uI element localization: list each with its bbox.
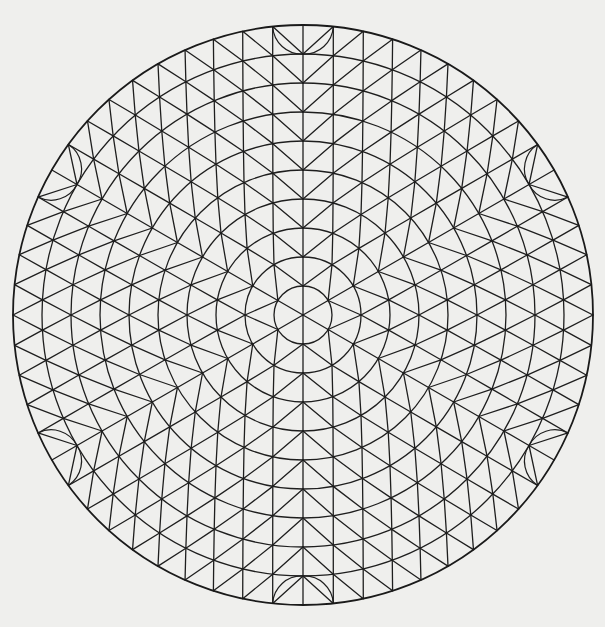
mesh-edge bbox=[253, 330, 278, 345]
mesh-edge bbox=[109, 494, 113, 530]
mesh-edge bbox=[27, 390, 53, 405]
geodesic-mesh-svg bbox=[0, 0, 605, 627]
mesh-edge bbox=[187, 498, 215, 516]
mesh-edge bbox=[247, 248, 253, 286]
mesh-edge bbox=[19, 360, 46, 375]
mesh-edge bbox=[170, 203, 196, 218]
mesh-edge bbox=[363, 70, 392, 91]
mesh-edge bbox=[203, 257, 228, 272]
mesh-edge bbox=[139, 151, 165, 166]
mesh-edge bbox=[385, 218, 411, 233]
mesh-edge bbox=[441, 345, 474, 360]
mesh-edge bbox=[273, 460, 303, 486]
mesh-edge bbox=[303, 518, 333, 545]
mesh-edge bbox=[119, 442, 144, 457]
mesh-edge bbox=[274, 344, 303, 365]
mesh-edge bbox=[165, 448, 191, 464]
mesh-edge bbox=[454, 188, 462, 228]
mesh-edge bbox=[303, 85, 333, 112]
mesh-edge bbox=[504, 159, 512, 199]
mesh-edge bbox=[501, 345, 533, 360]
mesh-edge bbox=[504, 185, 529, 200]
mesh-edge bbox=[195, 397, 221, 412]
mesh-edge bbox=[560, 270, 591, 285]
mesh-edge bbox=[165, 270, 191, 285]
mesh-edge bbox=[102, 199, 127, 214]
mesh-edge bbox=[388, 432, 415, 448]
mesh-edge bbox=[221, 382, 247, 397]
mesh-edge bbox=[479, 417, 487, 457]
mesh-edge bbox=[363, 39, 392, 61]
mesh-edge bbox=[533, 330, 564, 345]
mesh-edge bbox=[158, 64, 160, 97]
mesh-edge bbox=[87, 121, 113, 136]
mesh-edge bbox=[247, 344, 253, 382]
mesh-edge bbox=[53, 226, 89, 240]
mesh-edge bbox=[471, 80, 474, 115]
mesh-edge bbox=[105, 255, 139, 269]
mesh-edge bbox=[71, 315, 101, 330]
mesh-edge bbox=[187, 315, 217, 330]
mesh-edge bbox=[243, 31, 273, 55]
mesh-edge bbox=[378, 359, 385, 398]
mesh-edge bbox=[133, 515, 136, 550]
mesh-edge bbox=[363, 539, 392, 560]
mesh-edge bbox=[216, 432, 218, 465]
mesh-edge bbox=[403, 373, 428, 388]
mesh-edge bbox=[415, 147, 418, 181]
mesh-edge bbox=[244, 427, 273, 447]
mesh-edge bbox=[333, 545, 363, 569]
mesh-edge bbox=[152, 228, 177, 243]
mesh-edge bbox=[419, 516, 420, 548]
mesh-edge bbox=[187, 300, 217, 315]
mesh-edge bbox=[217, 300, 245, 315]
mesh-edge bbox=[105, 345, 132, 360]
mesh-edge bbox=[467, 479, 471, 515]
mesh-edge bbox=[462, 174, 487, 189]
mesh-edge bbox=[403, 243, 428, 258]
mesh-edge bbox=[79, 360, 105, 375]
mesh-edge bbox=[218, 397, 221, 432]
mesh-edge bbox=[333, 574, 363, 598]
mesh-edge bbox=[467, 479, 493, 494]
mesh-edge bbox=[471, 515, 474, 550]
mesh-edge bbox=[133, 80, 136, 115]
mesh-edge bbox=[385, 397, 388, 432]
mesh-edge bbox=[467, 115, 471, 151]
mesh-edge bbox=[15, 270, 46, 285]
mesh-edge bbox=[441, 255, 467, 270]
mesh-edge bbox=[79, 255, 105, 270]
mesh-edge bbox=[560, 360, 587, 375]
mesh-edge bbox=[94, 159, 119, 174]
mesh-edge bbox=[135, 115, 162, 131]
mesh-edge bbox=[492, 375, 527, 389]
mesh-edge bbox=[165, 345, 191, 360]
mesh-edge bbox=[385, 198, 388, 233]
mesh-edge bbox=[158, 64, 186, 82]
mesh-edge bbox=[420, 50, 421, 82]
mesh-edge bbox=[333, 121, 363, 144]
mesh-edge bbox=[467, 255, 501, 269]
mesh-edge bbox=[333, 91, 363, 114]
mesh-edge bbox=[195, 373, 202, 412]
mesh-edge bbox=[218, 198, 221, 233]
mesh-edge bbox=[332, 248, 359, 264]
mesh-edge bbox=[185, 560, 214, 580]
mesh-edge bbox=[218, 198, 245, 215]
mesh-edge bbox=[303, 344, 332, 365]
mesh-edge bbox=[501, 360, 527, 375]
mesh-edge bbox=[273, 547, 303, 574]
mesh-edge bbox=[353, 344, 359, 382]
mesh-edge bbox=[160, 97, 162, 131]
mesh-edge bbox=[479, 174, 487, 214]
mesh-edge bbox=[71, 300, 101, 315]
mesh-edge bbox=[87, 121, 93, 159]
mesh-edge bbox=[160, 499, 162, 533]
mesh-edge bbox=[185, 50, 214, 70]
mesh-edge bbox=[444, 499, 471, 515]
mesh-edge bbox=[247, 248, 274, 264]
mesh-edge bbox=[73, 330, 101, 345]
mesh-edge bbox=[109, 99, 113, 135]
mesh-edge bbox=[303, 233, 333, 257]
mesh-edge bbox=[195, 218, 221, 233]
